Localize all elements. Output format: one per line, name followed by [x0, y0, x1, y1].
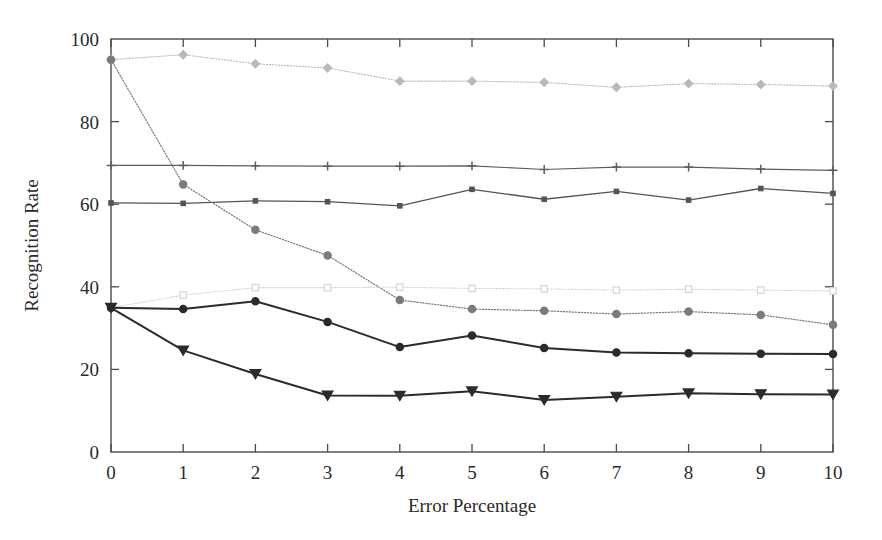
y-tick-label: 0: [90, 442, 100, 463]
data-point-marker: [180, 306, 187, 313]
data-point-marker: [179, 50, 187, 58]
y-tick-label: 40: [80, 277, 99, 298]
x-tick-label: 0: [106, 462, 116, 483]
x-tick-label: 1: [178, 462, 188, 483]
data-point-marker: [757, 350, 764, 357]
y-tick-label: 60: [80, 194, 99, 215]
x-tick-label: 7: [612, 462, 622, 483]
x-tick-label: 8: [684, 462, 694, 483]
data-point-marker: [323, 64, 331, 72]
data-point-marker: [829, 82, 837, 90]
data-point-marker: [180, 292, 186, 298]
scan-artifact-line: [0, 518, 882, 520]
data-point-marker: [468, 332, 475, 339]
data-point-marker: [757, 311, 764, 318]
data-point-marker: [759, 186, 763, 190]
data-point-marker: [684, 79, 692, 87]
x-tick-label: 3: [323, 462, 333, 483]
y-tick-label: 80: [80, 112, 99, 133]
data-point-marker: [252, 284, 258, 290]
x-tick-label: 5: [467, 462, 477, 483]
figure-container: 012345678910020406080100Error Percentage…: [0, 0, 882, 540]
data-point-marker: [542, 197, 546, 201]
data-point-marker: [612, 83, 620, 91]
data-point-marker: [396, 77, 404, 85]
data-point-marker: [829, 166, 838, 175]
x-tick-label: 6: [539, 462, 549, 483]
series-series-3: [109, 186, 835, 208]
data-point-marker: [613, 310, 620, 317]
data-point-marker: [397, 284, 403, 290]
series-series-1: [107, 50, 837, 91]
x-tick-label: 2: [251, 462, 261, 483]
data-point-marker: [685, 308, 692, 315]
data-point-marker: [109, 201, 113, 205]
data-point-marker: [323, 162, 332, 171]
data-point-marker: [540, 78, 548, 86]
data-point-marker: [396, 296, 403, 303]
data-point-marker: [756, 165, 765, 174]
data-point-marker: [469, 285, 475, 291]
data-point-marker: [685, 350, 692, 357]
x-tick-label: 4: [395, 462, 405, 483]
data-point-marker: [324, 284, 330, 290]
data-point-marker: [614, 189, 618, 193]
data-point-marker: [179, 161, 188, 170]
data-point-marker: [251, 161, 260, 170]
data-point-marker: [325, 200, 329, 204]
data-point-marker: [251, 60, 259, 68]
data-point-marker: [613, 349, 620, 356]
data-point-marker: [324, 318, 331, 325]
data-point-marker: [541, 344, 548, 351]
x-axis-title: Error Percentage: [408, 495, 536, 516]
data-point-marker: [684, 163, 693, 172]
data-point-marker: [541, 286, 547, 292]
data-point-marker: [540, 165, 549, 174]
data-point-marker: [107, 161, 116, 170]
data-point-marker: [395, 162, 404, 171]
data-point-marker: [468, 306, 475, 313]
data-point-marker: [685, 286, 691, 292]
y-tick-label: 20: [80, 359, 99, 380]
data-point-marker: [396, 343, 403, 350]
data-point-marker: [324, 252, 331, 259]
x-tick-label: 9: [756, 462, 766, 483]
data-point-marker: [107, 56, 114, 63]
data-point-marker: [252, 226, 259, 233]
data-point-marker: [829, 321, 836, 328]
data-point-marker: [830, 288, 836, 294]
y-axis-title: Recognition Rate: [21, 179, 42, 311]
data-point-marker: [468, 77, 476, 85]
series-series-2: [107, 161, 838, 175]
y-tick-label: 100: [71, 29, 100, 50]
x-tick-label: 10: [824, 462, 843, 483]
data-point-marker: [831, 191, 835, 195]
data-point-marker: [829, 351, 836, 358]
data-point-marker: [252, 298, 259, 305]
line-chart: 012345678910020406080100Error Percentage…: [0, 0, 882, 540]
data-point-marker: [757, 80, 765, 88]
data-point-marker: [181, 201, 185, 205]
data-point-marker: [613, 287, 619, 293]
data-point-marker: [612, 163, 621, 172]
data-point-marker: [468, 161, 477, 170]
data-point-marker: [758, 287, 764, 293]
data-point-marker: [686, 198, 690, 202]
data-point-marker: [470, 187, 474, 191]
data-point-marker: [541, 307, 548, 314]
data-point-marker: [253, 199, 257, 203]
data-point-marker: [398, 204, 402, 208]
data-point-marker: [180, 181, 187, 188]
